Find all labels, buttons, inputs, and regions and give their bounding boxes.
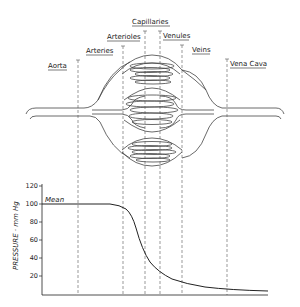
pressure-curve: [42, 204, 268, 291]
label-arteries: Arteries: [86, 47, 114, 55]
label-veins: Veins: [192, 46, 211, 54]
tick-100: 100: [26, 200, 38, 208]
tick-60: 60: [30, 236, 38, 244]
tick-120: 120: [26, 182, 38, 190]
tick-80: 80: [30, 218, 38, 226]
vessel-network: [26, 55, 284, 166]
label-vena-cava: Vena Cava: [230, 60, 267, 68]
circulation-diagram: Aorta Arteries Arterioles Capillaries Ve…: [0, 0, 300, 307]
label-aorta: Aorta: [48, 62, 67, 70]
tick-20: 20: [30, 272, 38, 280]
pressure-chart: 120 100 80 60 40 20 PRESSURE · mm Hg Mea…: [12, 182, 268, 295]
tick-40: 40: [30, 254, 38, 262]
label-arterioles: Arterioles: [107, 33, 141, 41]
divider-lines: [78, 31, 227, 295]
mean-label: Mean: [45, 196, 64, 204]
section-labels: Aorta Arteries Arterioles Capillaries Ve…: [48, 18, 267, 70]
label-capillaries: Capillaries: [132, 18, 169, 26]
y-axis-label: PRESSURE · mm Hg: [12, 201, 20, 270]
label-venules: Venules: [163, 32, 191, 40]
